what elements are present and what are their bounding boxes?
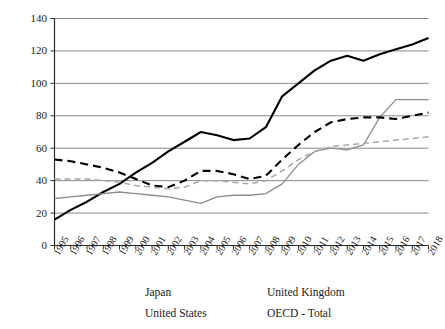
- axis-lines: [55, 19, 429, 246]
- plot-area: [0, 0, 445, 329]
- data-series: [55, 38, 429, 220]
- y-axis-tick-label: 0: [14, 240, 47, 251]
- y-axis-tick-label: 100: [14, 78, 47, 89]
- series-line-united-states: [55, 113, 429, 188]
- gridlines: [55, 19, 429, 214]
- y-axis-tick-label: 80: [14, 110, 47, 121]
- legend-item-oecd-total[interactable]: OECD - Total: [217, 307, 345, 319]
- legend-item-united-states[interactable]: United States: [95, 307, 207, 319]
- legend-label-japan: Japan: [145, 286, 171, 298]
- legend-label-united-kingdom: United Kingdom: [267, 286, 345, 298]
- legend-item-japan[interactable]: Japan: [95, 286, 207, 298]
- legend-item-united-kingdom[interactable]: United Kingdom: [217, 286, 345, 298]
- legend-label-united-states: United States: [145, 307, 207, 319]
- y-axis-tick-label: 140: [14, 13, 47, 24]
- y-axis-tick-label: 40: [14, 175, 47, 186]
- chart-legend: Japan United Kingdom United States OECD …: [95, 281, 395, 323]
- line-chart: 020406080100120140 199519961997199819992…: [0, 0, 445, 329]
- legend-label-oecd-total: OECD - Total: [267, 307, 331, 319]
- y-axis-tick-label: 20: [14, 208, 47, 219]
- y-axis-tick-label: 60: [14, 143, 47, 154]
- x-axis-ticks: [51, 19, 429, 250]
- y-axis-tick-label: 120: [14, 45, 47, 56]
